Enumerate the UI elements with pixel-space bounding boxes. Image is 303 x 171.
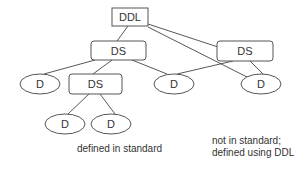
caption-not-in-standard-line2: defined using DDL [212,147,295,158]
node-ds-right-label: DS [237,45,252,57]
node-d1: D [20,74,60,94]
node-d2-label: D [170,78,178,90]
node-ds-left: DS [91,41,146,60]
caption-not-in-standard-line1: not in standard; [212,135,281,146]
node-ds-inner: DS [69,74,122,94]
edge-ds-right-d3 [250,61,263,74]
edge-ds-left-ds-inner [93,60,112,74]
node-d5: D [91,114,131,134]
node-d5-label: D [107,118,115,130]
edge-ds-right-d2 [177,61,233,74]
node-d4-label: D [61,118,69,130]
node-d3-label: D [257,78,265,90]
node-ds-left-label: DS [111,45,126,57]
edge-ds-inner-d5 [100,94,115,114]
node-d2: D [154,74,194,94]
edge-ddl-ds-left [117,26,128,41]
node-d3: D [241,74,281,94]
edge-ddl-ds-right [148,24,218,47]
caption-defined-in-standard: defined in standard [77,143,162,154]
node-ds-inner-label: DS [88,78,103,90]
node-d1-label: D [36,78,44,90]
node-d4: D [45,114,85,134]
node-ddl: DDL [112,8,148,26]
edge-ds-left-d2 [132,60,167,74]
hierarchy-diagram: DDL DS DS D DS D D D D defined in stand [0,0,303,171]
edge-ds-inner-d4 [68,94,89,114]
node-ds-right: DS [217,41,273,61]
edge-ds-left-d1 [44,60,95,74]
edges [44,24,263,114]
node-ddl-label: DDL [119,11,141,23]
